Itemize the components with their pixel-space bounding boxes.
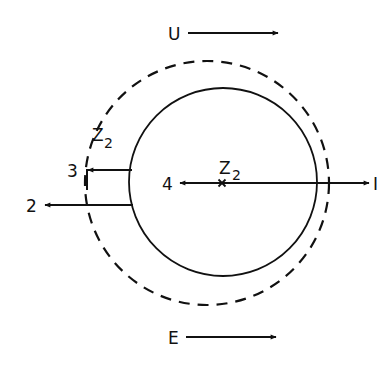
flow-label-e: E <box>168 328 179 348</box>
ray-2-label: 2 <box>26 196 37 216</box>
center-label-subscript: 2 <box>232 167 241 183</box>
ray-4-label: 4 <box>162 174 173 194</box>
center-label-z: Z <box>219 158 231 178</box>
outer-label-z: Z <box>92 125 104 145</box>
flow-arrow-e: E <box>168 328 276 348</box>
ray-1-label: I <box>373 174 378 194</box>
outer-label-subscript: 2 <box>104 135 113 151</box>
flow-label-u: U <box>168 24 180 44</box>
outer-circle-label: Z 2 <box>92 125 113 151</box>
diagram-canvas: U Z 2 3 2 4 I Z 2 E <box>0 0 392 365</box>
ray-3: 3 <box>67 161 132 190</box>
center-axis: 4 I <box>162 174 378 194</box>
ray-3-label: 3 <box>67 161 78 181</box>
ray-2: 2 <box>26 196 133 216</box>
flow-arrow-u: U <box>168 24 278 44</box>
